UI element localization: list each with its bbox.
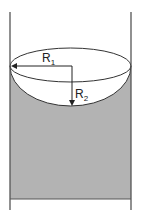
meniscus-surface-top	[10, 48, 131, 82]
meniscus-diagram: R1 R2	[0, 0, 141, 220]
r2-label: R2	[75, 87, 89, 103]
liquid-body	[10, 66, 131, 199]
